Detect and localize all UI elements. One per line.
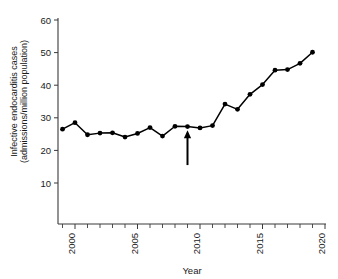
series-data-point bbox=[273, 68, 278, 73]
series-data-point bbox=[260, 82, 265, 87]
series-data-point bbox=[198, 126, 203, 131]
y-axis-title-line-1: Infective endocarditis cases bbox=[9, 46, 19, 157]
line-chart: 10203040506020002005201020152020 YearInf… bbox=[0, 0, 338, 279]
series-data-point bbox=[98, 131, 103, 136]
chart-axis-titles: YearInfective endocarditis cases(admissi… bbox=[9, 40, 202, 276]
series-data-point bbox=[110, 130, 115, 135]
series-data-point bbox=[148, 125, 153, 130]
chart-tick-marks bbox=[54, 20, 325, 229]
series-data-point bbox=[210, 123, 215, 128]
series-data-point bbox=[173, 124, 178, 129]
x-axis-tick-label: 2010 bbox=[191, 233, 202, 254]
series-data-point bbox=[235, 107, 240, 112]
series-data-point bbox=[310, 50, 315, 55]
series-data-point bbox=[248, 92, 253, 97]
x-axis-tick-label: 2005 bbox=[129, 233, 140, 254]
series-data-point bbox=[73, 120, 78, 125]
y-axis-tick-label: 40 bbox=[40, 80, 51, 91]
chart-tick-labels: 10203040506020002005201020152020 bbox=[40, 15, 327, 255]
chart-axes bbox=[58, 18, 326, 224]
x-axis-tick-label: 2000 bbox=[66, 233, 77, 254]
chart-figure: 10203040506020002005201020152020 YearInf… bbox=[0, 0, 338, 279]
x-axis-tick-label: 2020 bbox=[316, 233, 327, 254]
series-data-point bbox=[223, 102, 228, 107]
y-axis-tick-label: 10 bbox=[40, 178, 51, 189]
series-data-point bbox=[298, 61, 303, 66]
x-axis-tick-label: 2015 bbox=[254, 233, 265, 254]
y-axis-title-line-2: (admissions/million population) bbox=[19, 40, 29, 163]
series-data-point bbox=[285, 67, 290, 72]
series-data-point bbox=[85, 132, 90, 137]
series-data-point bbox=[60, 127, 65, 132]
y-axis-tick-label: 50 bbox=[40, 47, 51, 58]
series-data-point bbox=[160, 134, 165, 139]
series-data-point bbox=[135, 131, 140, 136]
guideline-change-arrow-head bbox=[184, 130, 191, 138]
x-axis-title: Year bbox=[182, 265, 201, 276]
y-axis-tick-label: 20 bbox=[40, 145, 51, 156]
y-axis-tick-label: 30 bbox=[40, 112, 51, 123]
series-data-point bbox=[123, 135, 128, 140]
chart-annotations bbox=[184, 130, 191, 165]
chart-series bbox=[60, 50, 315, 140]
series-data-point bbox=[185, 124, 190, 129]
y-axis-tick-label: 60 bbox=[40, 15, 51, 26]
